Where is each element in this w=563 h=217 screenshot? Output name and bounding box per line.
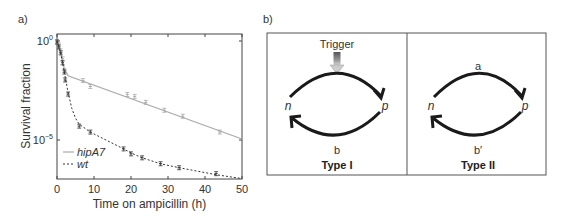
rate-a-label: a: [475, 60, 482, 72]
arrow-n-to-p-type-i: [290, 73, 381, 97]
node-p-type-ii: p: [521, 99, 529, 113]
persistence-diagram: Trigger n p b Type I a n p b′ Type II: [0, 0, 563, 217]
type-ii-panel: a n p b′ Type II: [428, 60, 529, 171]
type-i-panel: Trigger n p b Type I: [285, 38, 389, 171]
node-n-type-ii: n: [428, 99, 435, 113]
type-ii-title: Type II: [461, 159, 495, 171]
node-p-type-i: p: [381, 99, 389, 113]
rate-b-prime-label: b′: [474, 144, 482, 156]
trigger-arrow-icon: [330, 52, 344, 74]
arrow-p-to-n-type-i: [292, 112, 380, 135]
rate-b-label: b: [334, 144, 340, 156]
trigger-label: Trigger: [320, 38, 355, 50]
arrow-n-to-p-type-ii: [434, 73, 522, 97]
node-n-type-i: n: [285, 99, 292, 113]
arrow-p-to-n-type-ii: [433, 112, 521, 135]
type-i-title: Type I: [322, 159, 353, 171]
